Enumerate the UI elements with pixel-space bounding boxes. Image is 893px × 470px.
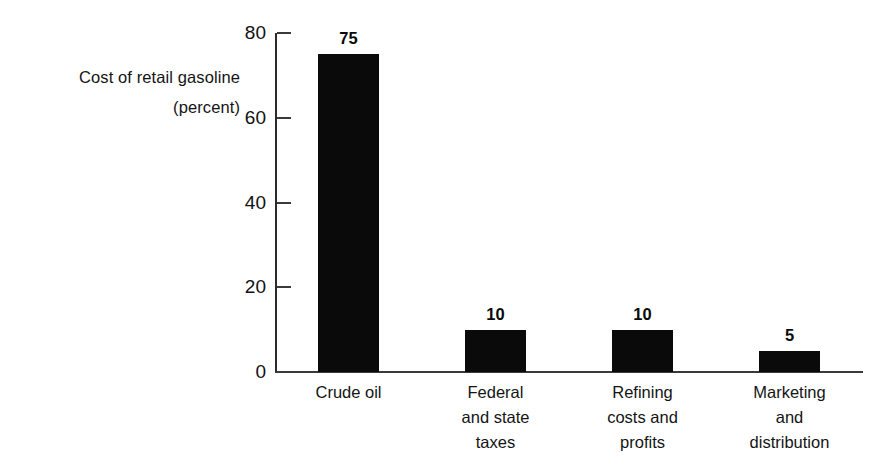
x-axis-category-label-line: taxes	[416, 430, 576, 455]
bar[interactable]	[759, 351, 820, 372]
bar[interactable]	[465, 330, 526, 372]
x-axis-category-label: Crude oil	[269, 380, 429, 405]
plot-area: 7510105	[275, 33, 863, 372]
y-axis-title-line-1: Cost of retail gasoline	[79, 68, 240, 86]
y-axis-tick-labels: 020406080	[226, 33, 266, 372]
y-axis-tick-label: 80	[220, 23, 266, 42]
y-axis-tick	[277, 202, 291, 204]
x-axis-category-label-line: Federal	[416, 380, 576, 405]
y-axis-tick	[277, 32, 291, 34]
y-axis-tick-label: 60	[220, 108, 266, 127]
y-axis-title: Cost of retail gasoline (percent)	[18, 62, 240, 122]
x-axis-category-label-line: Refining	[563, 380, 723, 405]
bar[interactable]	[612, 330, 673, 372]
x-axis-category-label: Federaland statetaxes	[416, 380, 576, 455]
y-axis-tick-label: 40	[220, 193, 266, 212]
x-axis-category-label-line: and state	[416, 405, 576, 430]
bar[interactable]	[318, 54, 379, 372]
x-axis-category-label-line: Marketing	[710, 380, 870, 405]
bar-chart: Cost of retail gasoline (percent) 020406…	[0, 0, 893, 470]
x-axis-category-label-line: Crude oil	[269, 380, 429, 405]
x-axis-category-label-line: distribution	[710, 430, 870, 455]
y-axis-tick-label: 20	[220, 277, 266, 296]
y-axis-tick	[277, 117, 291, 119]
x-axis-category-label: Marketinganddistribution	[710, 380, 870, 455]
x-axis-category-label-line: profits	[563, 430, 723, 455]
x-axis-category-label: Refiningcosts andprofits	[563, 380, 723, 455]
y-axis-tick	[277, 371, 291, 373]
y-axis-tick	[277, 286, 291, 288]
bar-value-label: 5	[750, 327, 830, 344]
y-axis-title-line-2: (percent)	[18, 92, 240, 122]
bar-value-label: 75	[309, 30, 389, 47]
x-axis-category-label-line: costs and	[563, 405, 723, 430]
y-axis-tick-label: 0	[220, 362, 266, 381]
bar-value-label: 10	[456, 306, 536, 323]
bar-value-label: 10	[603, 306, 683, 323]
x-axis-category-label-line: and	[710, 405, 870, 430]
